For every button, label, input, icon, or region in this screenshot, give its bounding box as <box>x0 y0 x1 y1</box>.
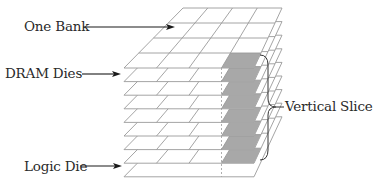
label-dram-dies: DRAM Dies <box>5 67 82 81</box>
label-vertical-slice: Vertical Slice <box>285 100 373 114</box>
die-stack <box>124 8 282 177</box>
label-one-bank: One Bank <box>24 20 89 34</box>
label-logic-die: Logic Die <box>24 160 87 174</box>
top-dram-die <box>124 8 282 68</box>
